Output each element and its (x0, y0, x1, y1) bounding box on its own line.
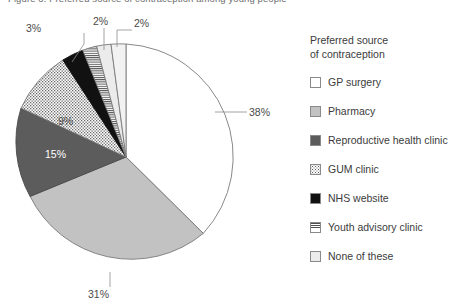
legend-item-pharmacy[interactable]: Pharmacy (310, 105, 454, 117)
legend-label-none-of-these: None of these (328, 250, 393, 262)
legend-item-nhs-website[interactable]: NHS website (310, 192, 454, 204)
chart-figure: Figure 3: Preferred source of contracept… (0, 0, 454, 307)
pie-label-pharmacy: 31% (88, 288, 109, 300)
pie-label-reproductive-health-clinic: 15% (45, 148, 66, 160)
legend-label-gp-surgery: GP surgery (328, 76, 381, 88)
legend-label-nhs-website: NHS website (328, 192, 389, 204)
pie-label-youth-advisory-clinic: 2% (93, 15, 108, 27)
legend-title-line-1: Preferred source (310, 33, 454, 47)
legend-swatch-none-of-these-icon (310, 251, 321, 262)
pie-label-gum-clinic: 9% (58, 115, 73, 127)
legend-swatch-reproductive-health-clinic-icon (310, 135, 321, 146)
pie-label-nhs-website: 3% (26, 22, 41, 34)
pie-label-none-of-these: 2% (134, 17, 149, 29)
legend-item-gum-clinic[interactable]: GUM clinic (310, 163, 454, 175)
legend-item-youth-advisory-clinic[interactable]: Youth advisory clinic (310, 221, 454, 233)
legend-swatch-nhs-website-icon (310, 193, 321, 204)
legend-item-reproductive-health-clinic[interactable]: Reproductive health clinic (310, 134, 454, 146)
legend-label-pharmacy: Pharmacy (328, 105, 375, 117)
legend-title: Preferred source of contraception (310, 33, 454, 61)
legend-swatch-pharmacy-icon (310, 106, 321, 117)
legend-swatch-youth-advisory-clinic-icon (310, 222, 321, 233)
chart-legend: Preferred source of contraception GP sur… (310, 33, 454, 262)
legend-swatch-gum-clinic-icon (310, 164, 321, 175)
legend-swatch-gp-surgery-icon (310, 77, 321, 88)
legend-label-gum-clinic: GUM clinic (328, 163, 379, 175)
legend-title-line-2: of contraception (310, 47, 454, 61)
legend-label-reproductive-health-clinic: Reproductive health clinic (328, 134, 448, 146)
pie-label-gp-surgery: 38% (249, 106, 270, 118)
legend-item-gp-surgery[interactable]: GP surgery (310, 76, 454, 88)
legend-label-youth-advisory-clinic: Youth advisory clinic (328, 221, 423, 233)
legend-item-none-of-these[interactable]: None of these (310, 250, 454, 262)
